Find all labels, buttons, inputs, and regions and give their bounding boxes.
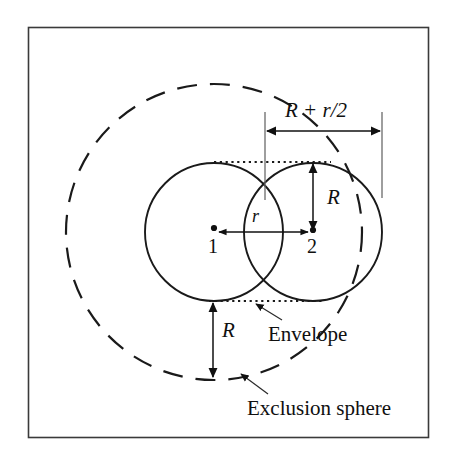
radius-label-bottom: R xyxy=(222,320,235,341)
center-dot-two xyxy=(310,227,316,233)
center-label-two: 2 xyxy=(307,236,317,256)
radius-label-right: R xyxy=(327,187,340,208)
center-label-one: 1 xyxy=(208,236,218,256)
dimension-label-top: R + r/2 xyxy=(285,100,347,121)
separation-label: r xyxy=(252,207,259,225)
center-dot-one xyxy=(211,225,217,231)
exclusion-sphere-label: Exclusion sphere xyxy=(247,398,391,419)
geometry-figure: R + r/2 R R r 1 2 Envelope Exclusion sph… xyxy=(0,0,452,457)
diagram-canvas xyxy=(0,0,452,457)
envelope-label: Envelope xyxy=(268,324,347,345)
